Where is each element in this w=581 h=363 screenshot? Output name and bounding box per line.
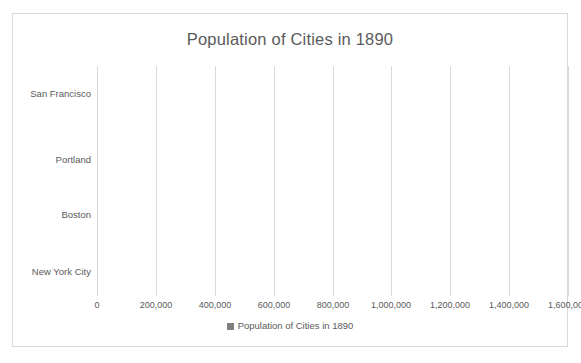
tick-label: 800,000 [317,300,350,310]
plot-area [97,66,568,296]
chart-legend: Population of Cities in 1890 [13,320,567,331]
category-label-portland: Portland [9,149,91,171]
category-label-san-francisco: San Francisco [9,83,91,105]
chart-page: ​ Population of Cities in 1890 San Franc… [0,0,581,363]
category-label-new-york-city: New York City [9,261,91,283]
tick-label: 1,200,000 [430,300,470,310]
bar-san-francisco[interactable] [97,83,185,105]
bar-portland[interactable] [97,149,115,171]
value-axis-tick-labels: 0200,000400,000600,000800,0001,000,0001,… [97,300,568,314]
category-label-boston: Boston [9,204,91,226]
bar-new-york-city[interactable] [97,261,539,283]
tick-label: 1,000,000 [371,300,411,310]
tick-label: 1,400,000 [489,300,529,310]
chart-title: Population of Cities in 1890 [13,30,567,49]
gridline [568,66,569,296]
tick-label: 600,000 [258,300,291,310]
tick-label: 200,000 [140,300,173,310]
tick-label: 1,600,000 [548,300,581,310]
tick-label: 400,000 [199,300,232,310]
chart-frame: Population of Cities in 1890 San Francis… [12,13,568,347]
bar-boston[interactable] [97,204,227,226]
legend-color-swatch-icon [227,323,234,330]
scan-artifact-text: ​ [0,0,581,11]
tick-label: 0 [94,300,99,310]
legend-entry-label: Population of Cities in 1890 [238,320,354,331]
